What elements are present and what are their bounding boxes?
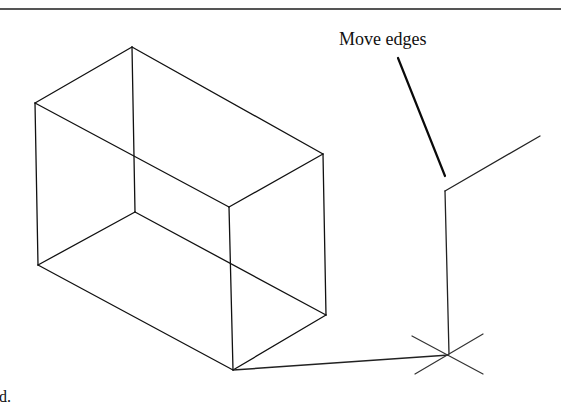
box-edge-top-back-left — [35, 47, 132, 103]
box-edge-top-front-left — [35, 103, 229, 207]
point-marker-icon — [412, 334, 483, 374]
box-edge-bottom-back-right — [135, 212, 326, 315]
callout-label: Move edges — [339, 30, 426, 48]
callout-leader-line — [398, 58, 445, 176]
connector-line — [233, 355, 449, 370]
caption-fragment: d. — [0, 389, 11, 405]
moved-edge-vertical — [445, 191, 449, 354]
box-edge-vertical-right — [323, 154, 326, 315]
box-edge-bottom-back-left — [38, 212, 135, 265]
box-edge-top-back-right — [132, 47, 323, 154]
box-edge-vertical-front — [229, 207, 233, 370]
moved-edges — [445, 136, 540, 354]
box-edge-bottom-front-right — [233, 315, 326, 370]
box-edge-bottom-front-left — [38, 265, 233, 370]
moved-edge-diagonal — [445, 136, 540, 191]
box-edge-vertical-back — [132, 47, 135, 212]
wireframe-box — [35, 47, 326, 370]
box-edge-top-front-right — [229, 154, 323, 207]
wireframe-figure — [0, 0, 561, 410]
box-edge-vertical-left — [35, 103, 38, 265]
